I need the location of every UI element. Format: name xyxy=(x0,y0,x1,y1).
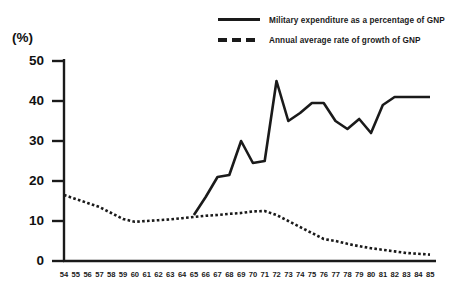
x-axis-tick-label: 54 xyxy=(58,270,70,279)
x-axis-tick-label: 84 xyxy=(412,270,424,279)
x-axis-tick-label: 80 xyxy=(365,270,377,279)
x-axis-tick-label: 83 xyxy=(401,270,413,279)
x-axis-tick-label: 72 xyxy=(271,270,283,279)
x-axis-tick-label: 55 xyxy=(70,270,82,279)
x-axis-tick-label: 64 xyxy=(176,270,188,279)
x-axis-tick-label: 58 xyxy=(105,270,117,279)
x-axis-tick-label: 60 xyxy=(129,270,141,279)
series-line-gnp-growth xyxy=(64,195,430,255)
y-axis-tick-label: 50 xyxy=(8,53,44,68)
x-axis-tick-label: 82 xyxy=(389,270,401,279)
x-axis-tick-label: 61 xyxy=(141,270,153,279)
x-axis-tick-label: 57 xyxy=(94,270,106,279)
x-axis-tick-label: 70 xyxy=(247,270,259,279)
x-axis-tick-label: 81 xyxy=(377,270,389,279)
y-axis-tick-label: 0 xyxy=(8,253,44,268)
chart-axes xyxy=(52,59,436,261)
y-axis-tick-label: 20 xyxy=(8,173,44,188)
x-axis-tick-label: 62 xyxy=(153,270,165,279)
x-axis-tick-label: 56 xyxy=(82,270,94,279)
y-axis-tick-label: 40 xyxy=(8,93,44,108)
x-axis-tick-label: 85 xyxy=(424,270,436,279)
x-axis-tick-label: 74 xyxy=(294,270,306,279)
x-axis-tick-label: 79 xyxy=(353,270,365,279)
y-axis-tick-label: 30 xyxy=(8,133,44,148)
x-axis-tick-label: 75 xyxy=(306,270,318,279)
x-axis-tick-labels: 5455565758596061626364656667686970717273… xyxy=(58,270,436,279)
x-axis-tick-label: 63 xyxy=(164,270,176,279)
x-axis-tick-label: 77 xyxy=(330,270,342,279)
plot-area xyxy=(0,0,449,295)
x-axis-tick-label: 66 xyxy=(200,270,212,279)
chart-container: Military expenditure as a percentage of … xyxy=(0,0,449,295)
x-axis-tick-label: 68 xyxy=(223,270,235,279)
x-axis-tick-label: 67 xyxy=(212,270,224,279)
x-axis-tick-label: 65 xyxy=(188,270,200,279)
y-axis-tick-label: 10 xyxy=(8,213,44,228)
x-axis-tick-label: 69 xyxy=(235,270,247,279)
x-axis-tick-label: 76 xyxy=(318,270,330,279)
x-axis-tick-label: 78 xyxy=(342,270,354,279)
x-axis-tick-label: 73 xyxy=(283,270,295,279)
series-line-military-expenditure xyxy=(194,81,430,215)
x-axis-tick-label: 59 xyxy=(117,270,129,279)
x-axis-tick-label: 71 xyxy=(259,270,271,279)
y-axis-ticks xyxy=(52,61,64,261)
